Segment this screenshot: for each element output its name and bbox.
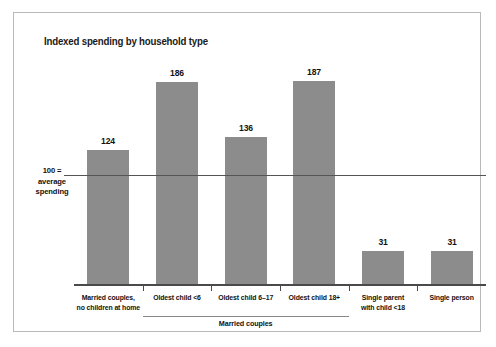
x-axis-tick [143, 285, 144, 291]
reference-line-label: 100 =averagespending [30, 166, 74, 198]
category-label: Single person [409, 293, 495, 303]
reference-line-100 [74, 175, 486, 176]
bar-value-label: 31 [364, 236, 402, 247]
reference-label-line-1: average [30, 177, 74, 188]
x-axis-tick [211, 285, 212, 291]
bar [362, 251, 404, 285]
bar [87, 150, 129, 285]
x-axis-tick [349, 285, 350, 291]
bar-value-label: 136 [227, 122, 265, 133]
group-bracket-line [143, 316, 349, 317]
chart-frame: Indexed spending by household type 12418… [13, 12, 481, 332]
bar [225, 137, 267, 285]
reference-label-line-2: spending [30, 187, 74, 198]
plot-area: 1241861361873131 [74, 53, 486, 285]
bar [156, 82, 198, 285]
bar [293, 81, 335, 285]
reference-label-line-0: 100 = [30, 166, 74, 177]
bar [431, 251, 473, 285]
bar-value-label: 186 [158, 67, 196, 78]
group-bracket-label: Married couples [143, 319, 349, 328]
x-axis-tick [280, 285, 281, 291]
bar-value-label: 124 [89, 135, 127, 146]
figure: Indexed spending by household type 12418… [0, 0, 496, 347]
bar-value-label: 31 [433, 236, 471, 247]
chart-title: Indexed spending by household type [44, 35, 208, 47]
bar-value-label: 187 [295, 66, 333, 77]
x-axis-tick [417, 285, 418, 291]
